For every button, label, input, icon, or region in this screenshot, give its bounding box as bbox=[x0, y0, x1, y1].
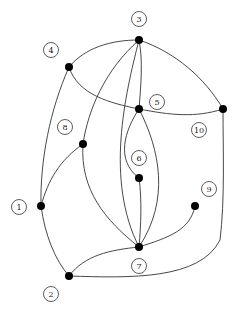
edge-8-1 bbox=[41, 144, 83, 206]
node-1 bbox=[37, 202, 45, 210]
label-text: 4 bbox=[48, 46, 53, 55]
label-text: 7 bbox=[136, 262, 141, 271]
edge-5-6 bbox=[125, 109, 139, 178]
node-label-2: 2 bbox=[44, 287, 59, 302]
node-label-1: 1 bbox=[12, 200, 27, 215]
node-label-9: 9 bbox=[202, 182, 217, 197]
label-text: 8 bbox=[62, 123, 67, 132]
node-label-7: 7 bbox=[132, 259, 147, 274]
edge-3-4 bbox=[69, 40, 139, 67]
label-text: 9 bbox=[206, 185, 211, 194]
node-label-10: 10 bbox=[192, 123, 207, 138]
label-text: 5 bbox=[154, 98, 159, 107]
graph-diagram: 12345678910 bbox=[0, 0, 241, 314]
node-10 bbox=[219, 105, 227, 113]
label-text: 1 bbox=[16, 203, 21, 212]
node-label-4: 4 bbox=[44, 43, 59, 58]
edge-7-9 bbox=[139, 206, 195, 247]
node-3 bbox=[135, 36, 143, 44]
node-6 bbox=[135, 174, 143, 182]
edge-5-10 bbox=[139, 109, 223, 115]
node-4 bbox=[65, 63, 73, 71]
edge-4-1 bbox=[41, 67, 69, 206]
edge-3-8 bbox=[83, 40, 139, 144]
node-label-6: 6 bbox=[132, 151, 147, 166]
label-text: 10 bbox=[194, 126, 204, 135]
node-7 bbox=[135, 243, 143, 251]
label-text: 6 bbox=[136, 154, 141, 163]
label-text: 3 bbox=[136, 15, 141, 24]
edge-3-7 bbox=[120, 40, 139, 247]
node-label-3: 3 bbox=[132, 12, 147, 27]
node-label-5: 5 bbox=[150, 95, 165, 110]
node-2 bbox=[65, 272, 73, 280]
edge-3-5 bbox=[139, 40, 141, 109]
edge-2-7 bbox=[69, 247, 139, 276]
edge-6-7 bbox=[139, 178, 141, 247]
node-5 bbox=[135, 105, 143, 113]
edge-1-2 bbox=[41, 206, 69, 276]
node-9 bbox=[191, 202, 199, 210]
node-8 bbox=[79, 140, 87, 148]
label-text: 2 bbox=[48, 290, 53, 299]
edge-8-7 bbox=[83, 144, 139, 247]
node-label-8: 8 bbox=[58, 120, 73, 135]
